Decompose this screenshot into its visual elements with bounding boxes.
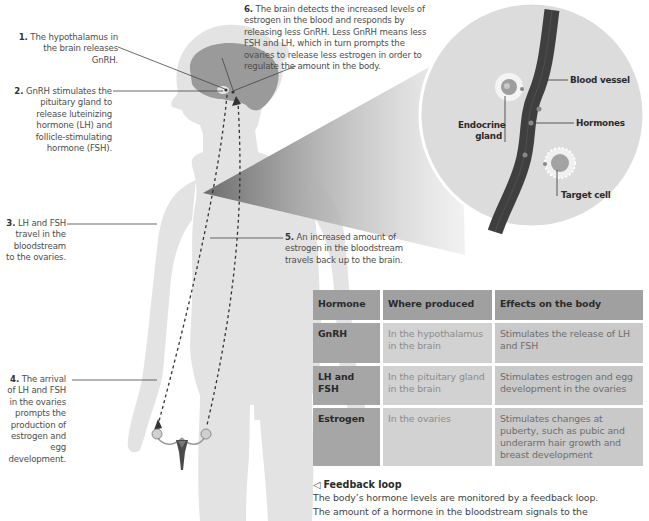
cell-hormone: Estrogen bbox=[313, 408, 380, 466]
label-endocrine-gland: Endocrine gland bbox=[458, 120, 502, 142]
callout-1: 1. The hypothalamus in the brain release… bbox=[18, 32, 118, 66]
callout-2: 2. GnRH stimulates the pituitary gland t… bbox=[8, 86, 112, 154]
cell-where: In the hypothalamus in the brain bbox=[383, 323, 492, 363]
header-hormone: Hormone bbox=[313, 290, 380, 320]
callout-3: 3. LH and FSH travel in the bloodstream … bbox=[4, 218, 66, 264]
cell-hormone: LH and FSH bbox=[313, 366, 380, 405]
left-triangle-pointer-icon: ◁ bbox=[313, 479, 320, 490]
feedback-body-line-1: The body’s hormone levels are monitored … bbox=[313, 491, 649, 505]
label-blood-vessel: Blood vessel bbox=[570, 75, 630, 86]
cell-effects: Stimulates changes at puberty, such as p… bbox=[495, 408, 643, 466]
table-row: LH and FSH In the pituitary gland in the… bbox=[313, 366, 643, 405]
feedback-title: ◁Feedback loop bbox=[313, 478, 649, 491]
cell-effects: Stimulates the release of LH and FSH bbox=[495, 323, 643, 363]
feedback-caption: ◁Feedback loop The body’s hormone levels… bbox=[313, 478, 649, 519]
callout-4: 4. The arrival of LH and FSH in the ovar… bbox=[4, 374, 66, 465]
feedback-body-line-2: The amount of a hormone in the bloodstre… bbox=[313, 505, 649, 519]
cell-effects: Stimulates estrogen and egg development … bbox=[495, 366, 643, 405]
callout-5: 5. An increased amount of estrogen in th… bbox=[285, 232, 407, 266]
table-row: GnRH In the hypothalamus in the brain St… bbox=[313, 323, 643, 363]
table-header-row: Hormone Where produced Effects on the bo… bbox=[313, 290, 643, 320]
header-effects: Effects on the body bbox=[495, 290, 643, 320]
cell-hormone: GnRH bbox=[313, 323, 380, 363]
label-target-cell: Target cell bbox=[561, 190, 611, 201]
header-where-produced: Where produced bbox=[383, 290, 492, 320]
cell-where: In the pituitary gland in the brain bbox=[383, 366, 492, 405]
hormone-table: Hormone Where produced Effects on the bo… bbox=[310, 287, 646, 469]
table-row: Estrogen In the ovaries Stimulates chang… bbox=[313, 408, 643, 466]
label-hormones: Hormones bbox=[576, 118, 625, 129]
cell-where: In the ovaries bbox=[383, 408, 492, 466]
callout-6: 6. The brain detects the increased level… bbox=[244, 4, 428, 72]
